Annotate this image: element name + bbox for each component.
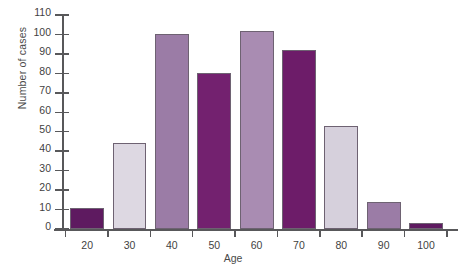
- x-tick-label: 100: [406, 239, 446, 251]
- bar: [155, 34, 189, 229]
- x-tick: [107, 229, 108, 237]
- y-tick: 90: [55, 53, 63, 54]
- y-tick-mark: [62, 53, 69, 54]
- x-tick: [319, 229, 320, 237]
- x-axis-line: [54, 229, 458, 231]
- y-tick-label: 80: [39, 65, 51, 77]
- plot-area: 0102030405060708090100110 20304050607080…: [62, 15, 458, 229]
- x-tick-label: 40: [152, 239, 192, 251]
- x-tick: [150, 229, 151, 237]
- x-tick-label: 90: [364, 239, 404, 251]
- bar: [324, 126, 358, 229]
- y-tick-mark: [62, 150, 69, 151]
- x-axis-title: Age: [0, 252, 466, 264]
- y-tick: 10: [55, 209, 63, 210]
- y-tick: 40: [55, 150, 63, 151]
- bar: [409, 223, 443, 229]
- x-tick-label: 60: [237, 239, 277, 251]
- y-tick-label: 100: [33, 26, 51, 38]
- y-tick-mark: [62, 92, 69, 93]
- x-tick: [446, 229, 447, 237]
- x-tick-label: 20: [67, 239, 107, 251]
- y-tick-mark: [62, 209, 69, 210]
- x-tick-label: 70: [279, 239, 319, 251]
- y-axis-line: [62, 15, 64, 229]
- y-tick-mark: [62, 73, 69, 74]
- y-tick-mark: [62, 170, 69, 171]
- y-tick: 80: [55, 73, 63, 74]
- y-tick-label: 40: [39, 142, 51, 154]
- y-tick-mark: [62, 34, 69, 35]
- y-tick: 0: [55, 228, 63, 229]
- x-tick-label: 30: [110, 239, 150, 251]
- y-tick-label: 50: [39, 123, 51, 135]
- y-tick-label: 0: [45, 220, 51, 232]
- bar: [240, 31, 274, 229]
- bar: [367, 202, 401, 229]
- y-tick: 100: [55, 34, 63, 35]
- x-tick: [361, 229, 362, 237]
- y-tick-label: 70: [39, 84, 51, 96]
- y-tick: 60: [55, 112, 63, 113]
- bar: [113, 143, 147, 229]
- x-tick: [404, 229, 405, 237]
- x-tick: [192, 229, 193, 237]
- y-tick-label: 110: [34, 6, 51, 18]
- y-tick-label: 60: [39, 104, 51, 116]
- bar: [70, 208, 104, 229]
- bar-chart: Number of cases 010203040506070809010011…: [0, 0, 466, 277]
- y-tick: 50: [55, 131, 63, 132]
- y-tick-mark: [62, 189, 69, 190]
- y-tick-label: 90: [39, 45, 51, 57]
- y-tick: 20: [55, 189, 63, 190]
- x-tick-label: 50: [194, 239, 234, 251]
- y-tick: 30: [55, 170, 63, 171]
- bar: [197, 73, 231, 229]
- y-tick-mark: [62, 112, 69, 113]
- y-tick-mark: [62, 14, 69, 15]
- y-tick: 70: [55, 92, 63, 93]
- x-tick: [277, 229, 278, 237]
- x-tick-label: 80: [321, 239, 361, 251]
- bar: [282, 50, 316, 229]
- y-tick-label: 30: [39, 162, 51, 174]
- y-tick: 110: [55, 14, 63, 15]
- y-tick-label: 20: [39, 181, 51, 193]
- y-axis-title: Number of cases: [16, 0, 28, 138]
- y-tick-mark: [62, 131, 69, 132]
- y-tick-label: 10: [39, 201, 51, 213]
- x-tick: [65, 229, 66, 237]
- x-tick: [234, 229, 235, 237]
